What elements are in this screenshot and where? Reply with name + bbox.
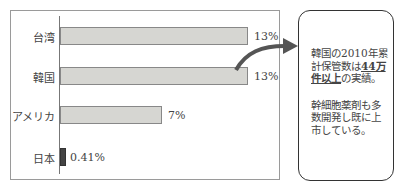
- annotation-paragraph-2: 幹細胞薬剤も多数開発し既に上市している。: [311, 99, 389, 137]
- annotation-paragraph-1: 韓国の2010年累計保管数は44万件以上の実績。: [311, 47, 389, 85]
- annotation-box: 韓国の2010年累計保管数は44万件以上の実績。 幹細胞薬剤も多数開発し既に上市…: [298, 10, 394, 181]
